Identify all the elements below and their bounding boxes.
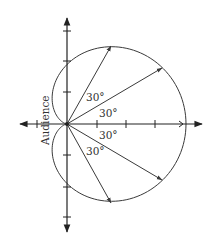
angle-label-upper-60: 30° [86,91,105,103]
angle-label-lower-30: 30° [99,129,118,141]
angle-label-lower-60: 30° [86,145,105,157]
cardioid-diagram: 30° 30° 30° 30° Audience [0,0,209,244]
audience-label: Audience [39,96,51,147]
angle-label-upper-30: 30° [99,107,118,119]
origin-point [65,122,69,126]
